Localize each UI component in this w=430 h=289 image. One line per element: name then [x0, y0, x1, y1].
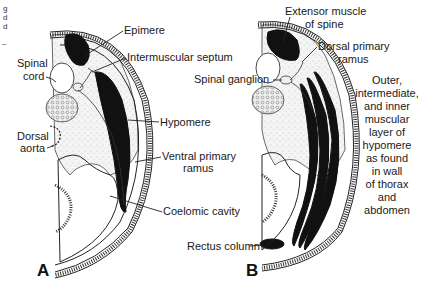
spinal-cord-a — [50, 63, 74, 93]
embryo-cross-section-figure: g d d – Epimere — [0, 0, 430, 289]
label-rectus-column: Rectus column — [187, 240, 260, 252]
svg-text:intermediate,: intermediate, — [355, 87, 419, 99]
panel-b: Extensor muscle of spine Dorsal primary … — [187, 5, 419, 280]
svg-text:as found: as found — [366, 152, 408, 164]
label-dorsal-aorta-line2: aorta — [20, 142, 46, 154]
svg-text:and inner: and inner — [364, 100, 410, 112]
svg-text:hypomere: hypomere — [363, 139, 412, 151]
svg-text:Outer,: Outer, — [372, 74, 402, 86]
panel-letter-a: A — [37, 261, 49, 280]
svg-text:in wall: in wall — [372, 165, 403, 177]
label-spinal-cord-line1: Spinal — [17, 57, 48, 69]
label-intermuscular-septum: Intermuscular septum — [127, 51, 233, 63]
label-coelomic-cavity: Coelomic cavity — [163, 205, 241, 217]
spinal-ganglion-a — [73, 83, 83, 91]
label-dorsal-primary-ramus-line2: ramus — [338, 53, 369, 65]
svg-text:abdomen: abdomen — [364, 204, 410, 216]
cropped-caption: g d d – — [2, 4, 7, 48]
label-ventral-primary-ramus-line1: Ventral primary — [162, 150, 236, 162]
svg-text:d: d — [3, 13, 7, 22]
label-hypomere: Hypomere — [160, 116, 211, 128]
svg-text:–: – — [2, 39, 7, 48]
label-epimere: Epimere — [124, 24, 165, 36]
svg-text:of thorax: of thorax — [366, 178, 409, 190]
label-dorsal-primary-ramus-line1: Dorsal primary — [318, 40, 390, 52]
gut-wall-b — [262, 175, 276, 222]
label-spinal-cord-line2: cord — [23, 70, 44, 82]
label-extensor-line2: of spine — [305, 18, 344, 30]
label-muscle-layers: Outer, intermediate, and inner muscular … — [355, 74, 419, 216]
svg-text:and: and — [378, 191, 396, 203]
svg-text:muscular: muscular — [365, 113, 410, 125]
panel-letter-b: B — [246, 261, 258, 280]
label-extensor-line1: Extensor muscle — [285, 5, 366, 17]
label-ventral-primary-ramus-line2: ramus — [183, 162, 214, 174]
label-dorsal-aorta-line1: Dorsal — [17, 130, 49, 142]
svg-text:layer of: layer of — [369, 126, 406, 138]
svg-text:d: d — [3, 22, 7, 31]
label-spinal-ganglion: Spinal ganglion — [194, 73, 269, 85]
gut-wall-a — [55, 185, 71, 232]
svg-text:g: g — [3, 4, 7, 13]
vertebral-body-a — [46, 94, 78, 122]
vertebral-body-b — [252, 86, 284, 114]
